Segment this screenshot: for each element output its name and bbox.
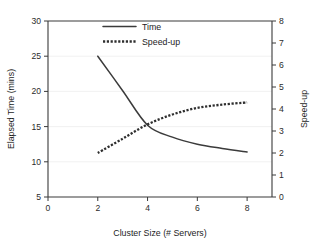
right-tick-label: 3 bbox=[279, 126, 284, 136]
x-axis-label: Cluster Size (# Servers) bbox=[113, 228, 206, 238]
y-axis-label: Elapsed Time (mins) bbox=[6, 69, 16, 149]
left-tick-label: 15 bbox=[31, 122, 41, 132]
right-axis-ticklabels: 012345678 bbox=[279, 16, 284, 202]
left-tick-label: 5 bbox=[36, 192, 41, 202]
legend-label-time: Time bbox=[142, 22, 161, 32]
right-tick-label: 6 bbox=[279, 60, 284, 70]
x-tick-label: 2 bbox=[95, 203, 100, 213]
right-tick-label: 0 bbox=[279, 192, 284, 202]
x-tick-label: 8 bbox=[245, 203, 250, 213]
chart-canvas: 51015202530 012345678 02468 Cluster Size… bbox=[0, 0, 320, 241]
gridline-group bbox=[48, 56, 272, 162]
right-tick-label: 4 bbox=[279, 104, 284, 114]
left-axis-ticklabels: 51015202530 bbox=[31, 16, 41, 202]
legend-label-speed-up: Speed-up bbox=[142, 37, 180, 47]
right-tick-label: 7 bbox=[279, 38, 284, 48]
left-tick-label: 30 bbox=[31, 16, 41, 26]
chart-figure: 51015202530 012345678 02468 Cluster Size… bbox=[0, 0, 320, 241]
right-axis-tickmarks bbox=[272, 21, 276, 197]
right-tick-label: 8 bbox=[279, 16, 284, 26]
x-tick-label: 4 bbox=[145, 203, 150, 213]
right-tick-label: 5 bbox=[279, 82, 284, 92]
x-axis-ticklabels: 02468 bbox=[46, 203, 250, 213]
y2-axis-label: Speed-up bbox=[299, 90, 309, 128]
right-tick-label: 1 bbox=[279, 170, 284, 180]
x-tick-label: 0 bbox=[46, 203, 51, 213]
left-tick-label: 20 bbox=[31, 86, 41, 96]
left-tick-label: 25 bbox=[31, 51, 41, 61]
left-axis-tickmarks bbox=[44, 21, 48, 197]
left-tick-label: 10 bbox=[31, 157, 41, 167]
right-tick-label: 2 bbox=[279, 148, 284, 158]
chart-legend: Time Speed-up bbox=[103, 22, 180, 47]
x-axis-tickmarks bbox=[48, 197, 247, 201]
x-tick-label: 6 bbox=[195, 203, 200, 213]
series-line-speed-up bbox=[98, 102, 247, 153]
